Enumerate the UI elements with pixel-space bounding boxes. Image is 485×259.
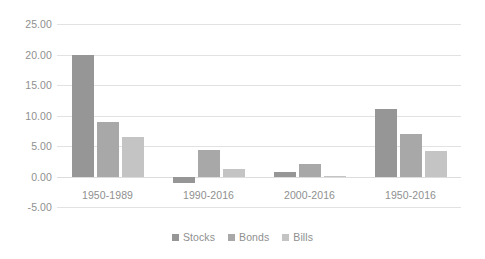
y-axis-tick-label: 5.00: [4, 141, 52, 152]
bar-stocks: [274, 172, 296, 177]
y-axis-tick-label: 0.00: [4, 171, 52, 182]
bars-layer: [57, 24, 461, 207]
bar-stocks: [72, 55, 94, 177]
bar-bills: [425, 151, 447, 177]
bar-group: [360, 24, 461, 207]
legend-swatch-icon: [228, 234, 235, 241]
bar-group: [259, 24, 360, 207]
x-axis-tick-label: 1990-2016: [158, 190, 259, 201]
y-axis-tick-label: 25.00: [4, 19, 52, 30]
bar-bonds: [97, 122, 119, 176]
x-axis-tick-label: 1950-2016: [360, 190, 461, 201]
x-axis: 1950-19891990-20162000-20161950-2016: [57, 190, 461, 208]
bar-stocks: [173, 177, 195, 183]
legend-label: Bills: [293, 232, 313, 243]
legend-swatch-icon: [282, 234, 289, 241]
legend-label: Bonds: [239, 232, 269, 243]
bar-bills: [324, 176, 346, 177]
legend-item-bonds[interactable]: Bonds: [228, 232, 269, 243]
y-axis-tick-label: -5.00: [4, 202, 52, 213]
legend-item-stocks[interactable]: Stocks: [172, 232, 215, 243]
bar-bonds: [198, 150, 220, 176]
bar-group: [57, 24, 158, 207]
y-axis-tick-label: 15.00: [4, 80, 52, 91]
bar-bills: [223, 169, 245, 176]
bar-group: [158, 24, 259, 207]
y-axis-tick-label: 20.00: [4, 49, 52, 60]
legend-swatch-icon: [172, 234, 179, 241]
legend-label: Stocks: [183, 232, 215, 243]
bar-stocks: [375, 109, 397, 176]
y-axis-tick-label: 10.00: [4, 110, 52, 121]
bar-bonds: [299, 164, 321, 176]
x-axis-tick-label: 2000-2016: [259, 190, 360, 201]
chart-legend: StocksBondsBills: [0, 232, 485, 243]
x-axis-tick-label: 1950-1989: [57, 190, 158, 201]
bar-chart: 25.0020.0015.0010.005.000.00-5.00 1950-1…: [0, 0, 485, 259]
bar-bonds: [400, 134, 422, 177]
y-axis: 25.0020.0015.0010.005.000.00-5.00: [0, 24, 52, 207]
legend-item-bills[interactable]: Bills: [282, 232, 313, 243]
bar-bills: [122, 137, 144, 177]
